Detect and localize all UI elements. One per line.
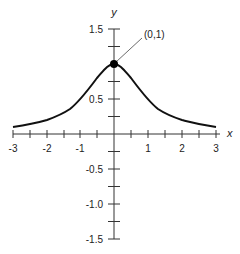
x-tick-label: -3 — [9, 143, 18, 154]
y-tick-label: -1.5 — [86, 234, 104, 245]
point-label: (0,1) — [144, 29, 165, 40]
x-tick-label: 1 — [145, 143, 151, 154]
y-tick-label: -0.5 — [86, 164, 104, 175]
x-tick-label: 3 — [213, 143, 219, 154]
x-tick-label: 2 — [179, 143, 185, 154]
x-tick-label: -1 — [76, 143, 85, 154]
point-marker — [110, 60, 118, 68]
y-tick-label: -1.0 — [86, 199, 104, 210]
y-axis-label: y — [110, 6, 118, 18]
chart: -3 -2 -1 1 2 3 1.5 0.5 -0.5 -1.0 -1.5 x … — [0, 0, 240, 254]
x-axis-label: x — [226, 127, 233, 139]
x-tick-label: -2 — [43, 143, 52, 154]
y-tick-label: 0.5 — [89, 94, 103, 105]
y-tick-label: 1.5 — [89, 24, 103, 35]
annotation-leader — [116, 38, 142, 62]
